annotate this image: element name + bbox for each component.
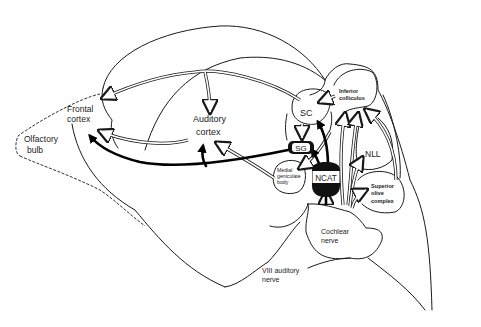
olfactory-bulb-label-2: bulb bbox=[27, 145, 43, 155]
viii-nerve-label-1: VIII auditory bbox=[262, 267, 300, 275]
sg-label: SG bbox=[295, 144, 307, 153]
soc-label-1: Superior bbox=[371, 183, 395, 189]
inferior-colliculus-label-2: colliculus bbox=[339, 95, 365, 101]
viii-nerve-label-2: nerve bbox=[262, 276, 280, 283]
ncat-label: NCAT bbox=[315, 174, 337, 183]
cochlear-nerve-label-2: nerve bbox=[321, 237, 339, 244]
olfactory-bulb-label-1: Olfactory bbox=[24, 134, 59, 144]
soc-label-3: complex bbox=[371, 198, 395, 204]
auditory-cortex-label-2: cortex bbox=[196, 127, 221, 137]
sc-label: SC bbox=[300, 108, 313, 118]
auditory-cortex-label-1: Auditory bbox=[193, 114, 227, 124]
ncat-node: NCAT bbox=[312, 162, 340, 197]
soc-label-2: olive bbox=[371, 190, 384, 196]
mgb-label-3: body bbox=[277, 179, 289, 185]
frontal-cortex-label-1: Frontal bbox=[67, 104, 94, 114]
cochlear-nerve-label-1: Cochlear bbox=[321, 228, 350, 235]
frontal-cortex-label-2: cortex bbox=[67, 114, 91, 124]
sg-node: SG bbox=[288, 141, 314, 154]
brain-diagram: SG NCAT Frontal cortex Olfactory bulb Au… bbox=[0, 0, 481, 327]
nll-label: NLL bbox=[365, 149, 381, 159]
brain-outline bbox=[16, 26, 432, 310]
inferior-colliculus-label-1: Inferior bbox=[339, 88, 359, 94]
